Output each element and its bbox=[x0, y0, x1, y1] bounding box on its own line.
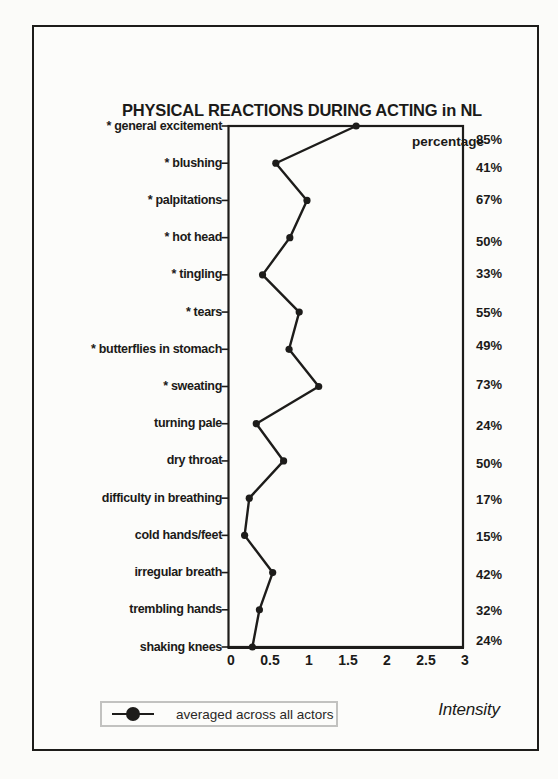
x-tick-label: 0 bbox=[227, 652, 235, 668]
data-point-marker bbox=[269, 569, 276, 576]
x-tick-label: 2 bbox=[383, 652, 391, 668]
percentage-value: 24% bbox=[476, 632, 502, 649]
category-label: irregular breath bbox=[134, 564, 222, 581]
percentage-value: 17% bbox=[476, 491, 502, 508]
data-point-marker bbox=[259, 271, 266, 278]
data-line bbox=[245, 126, 357, 647]
category-label: * butterflies in stomach bbox=[91, 341, 222, 358]
data-point-marker bbox=[296, 308, 303, 315]
category-label: * general excitement bbox=[106, 118, 222, 135]
data-point-marker bbox=[353, 122, 360, 129]
category-label: * blushing bbox=[165, 155, 222, 172]
percentage-value: 32% bbox=[476, 602, 502, 619]
data-point-marker bbox=[285, 346, 292, 353]
percentage-value: 50% bbox=[476, 233, 502, 250]
category-label: * tingling bbox=[172, 266, 222, 283]
data-point-marker bbox=[286, 234, 293, 241]
percentage-value: 24% bbox=[476, 417, 502, 434]
data-point-marker bbox=[253, 420, 260, 427]
percentage-value: 55% bbox=[476, 304, 502, 321]
x-tick-label: 1.5 bbox=[338, 652, 357, 668]
x-tick-label: 3 bbox=[461, 652, 469, 668]
percentage-value: 50% bbox=[476, 455, 502, 472]
data-point-marker bbox=[249, 643, 256, 650]
x-tick-label: 1 bbox=[305, 652, 313, 668]
category-label: * palpitations bbox=[148, 192, 222, 209]
percentage-value: 73% bbox=[476, 376, 502, 393]
category-label: * hot head bbox=[165, 229, 222, 246]
data-point-marker bbox=[315, 383, 322, 390]
category-label: difficulty in breathing bbox=[102, 490, 222, 507]
percentage-value: 33% bbox=[476, 265, 502, 282]
percentage-value: 42% bbox=[476, 566, 502, 583]
x-tick-label: 0.5 bbox=[260, 652, 279, 668]
data-point-marker bbox=[246, 495, 253, 502]
data-point-marker bbox=[303, 197, 310, 204]
category-label: cold hands/feet bbox=[135, 527, 222, 544]
plot-box bbox=[229, 126, 464, 647]
percentage-value: 49% bbox=[476, 337, 502, 354]
x-tick-label: 2.5 bbox=[416, 652, 435, 668]
category-label: * sweating bbox=[163, 378, 222, 395]
percentage-value: 67% bbox=[476, 191, 502, 208]
category-label: * tears bbox=[186, 304, 222, 321]
percentage-value: 41% bbox=[476, 159, 502, 176]
category-label: shaking knees bbox=[140, 639, 222, 656]
data-point-marker bbox=[241, 532, 248, 539]
data-point-marker bbox=[272, 160, 279, 167]
data-point-marker bbox=[280, 457, 287, 464]
category-label: dry throat bbox=[167, 452, 222, 469]
scanned-chart-page: PHYSICAL REACTIONS DURING ACTING in NL p… bbox=[0, 0, 558, 779]
percentage-value: 15% bbox=[476, 528, 502, 545]
data-point-marker bbox=[256, 606, 263, 613]
category-label: turning pale bbox=[154, 415, 222, 432]
percentage-value: 85% bbox=[476, 131, 502, 148]
category-label: trembling hands bbox=[129, 601, 222, 618]
